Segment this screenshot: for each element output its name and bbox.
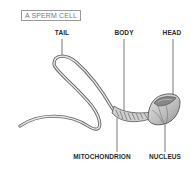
leader-lines — [62, 39, 173, 152]
label-tail: TAIL — [55, 29, 69, 36]
label-nucleus: NUCLEUS — [149, 153, 181, 160]
sperm-cell-illustration — [0, 0, 196, 172]
label-mitochondrion: MITOCHONDRION — [73, 153, 131, 160]
label-body: BODY — [114, 29, 133, 36]
midpiece-body — [112, 106, 152, 122]
label-head: HEAD — [163, 29, 182, 36]
tail-flagellum — [20, 56, 130, 129]
sperm-head — [148, 94, 180, 125]
